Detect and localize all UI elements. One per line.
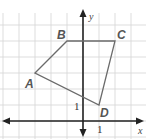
vertex-label-B: B <box>57 28 66 42</box>
x-axis-right-arrow <box>136 118 144 125</box>
y-axis-up-arrow <box>80 9 87 17</box>
x-axis-label: x <box>137 125 143 136</box>
coordinate-plane: y x 1 1 A B C D <box>0 0 146 139</box>
y-axis-label: y <box>88 11 94 22</box>
x-tick-label-1: 1 <box>97 123 103 135</box>
y-tick-label-1: 1 <box>74 100 80 112</box>
vertex-label-A: A <box>24 77 34 91</box>
y-axis-down-arrow <box>80 129 87 137</box>
vertex-label-C: C <box>117 28 126 42</box>
vertex-label-D: D <box>100 106 109 120</box>
